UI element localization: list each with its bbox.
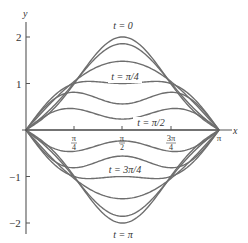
curve-1 bbox=[26, 44, 219, 130]
annotation-t0: t = 0 bbox=[109, 20, 137, 31]
y-tick-label-m1: −1 bbox=[9, 171, 21, 183]
x-tick-label-3pi4: 3π 4 bbox=[166, 133, 176, 152]
x-tick-label-pi2: π 2 bbox=[119, 133, 125, 152]
y-tick-label-1: 1 bbox=[16, 78, 22, 90]
svg-text:2: 2 bbox=[120, 143, 124, 152]
svg-text:t = 0: t = 0 bbox=[113, 20, 133, 31]
svg-text:t = π/2: t = π/2 bbox=[137, 117, 164, 128]
annotation-t-pi4: t = π/4 bbox=[108, 71, 142, 83]
annotation-t-pi2: t = π/2 bbox=[133, 117, 169, 129]
x-tick-label-pi4: π 4 bbox=[71, 133, 77, 152]
x-tick-label-pi: π bbox=[217, 133, 222, 143]
svg-text:π: π bbox=[120, 133, 125, 143]
svg-text:π: π bbox=[72, 133, 77, 143]
y-tick-label-2: 2 bbox=[16, 31, 22, 43]
svg-text:4: 4 bbox=[72, 143, 76, 152]
svg-text:t = π: t = π bbox=[113, 229, 134, 240]
annotation-t-pi: t = π bbox=[113, 229, 134, 240]
svg-text:4: 4 bbox=[169, 143, 173, 152]
annotation-t-3pi4: t = 3π/4 bbox=[104, 164, 146, 176]
y-axis-label: y bbox=[22, 8, 28, 19]
standing-wave-plot: y x 2 1 −1 −2 π 4 π 2 3π 4 π t = 0 t = π… bbox=[0, 0, 248, 243]
x-axis-label: x bbox=[232, 125, 238, 136]
y-tick-label-m2: −2 bbox=[9, 217, 21, 229]
svg-text:t = 3π/4: t = 3π/4 bbox=[109, 164, 141, 175]
svg-text:t = π/4: t = π/4 bbox=[111, 71, 138, 82]
svg-text:3π: 3π bbox=[167, 133, 176, 143]
